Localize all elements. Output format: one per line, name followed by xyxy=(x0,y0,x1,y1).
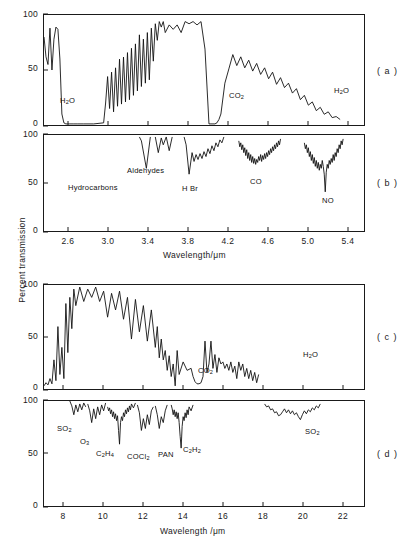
panel-c-annot-h2o: H2O xyxy=(303,350,318,359)
panel-a-ytick-0: 0 xyxy=(12,118,38,128)
xtick-bottom-0: 8 xyxy=(50,511,76,521)
panel-d-annot-o3: O3 xyxy=(80,437,89,446)
panel-b-annot-no: NO xyxy=(322,196,334,205)
panel-letter-b: ( b ) xyxy=(377,178,398,188)
panel-a-plot xyxy=(43,14,365,126)
x-axis-title-top: Wavelength/μm xyxy=(163,250,226,260)
xtick-top-0: 2.6 xyxy=(55,236,81,246)
panel-d-ytick-50: 50 xyxy=(12,448,38,458)
panel-a-annot-h2o-right: H2O xyxy=(334,86,349,95)
x-axis-title-bottom: Wavelength /μm xyxy=(160,526,225,536)
panel-letter-c: ( c ) xyxy=(377,332,398,342)
panel-b-annot-co: CO xyxy=(250,177,262,186)
panel-d-ytick-0: 0 xyxy=(12,500,38,510)
xtick-bottom-6: 20 xyxy=(290,511,316,521)
figure-container: 100 50 0 H2O CO2 H2O ( a ) 100 50 0 Hydr… xyxy=(0,0,413,545)
panel-a-ytick-100: 100 xyxy=(12,9,38,19)
xtick-bottom-5: 18 xyxy=(250,511,276,521)
panel-b-annot-hydrocarbons: Hydrocarbons xyxy=(68,183,118,192)
xtick-top-5: 4.6 xyxy=(255,236,281,246)
xtick-top-6: 5.0 xyxy=(295,236,321,246)
panel-d-annot-so2-right: SO2 xyxy=(305,427,320,436)
panel-d-annot-c2h4: C2H4 xyxy=(96,449,114,458)
panel-d-annot-cocl2: COCl2 xyxy=(127,452,150,461)
panel-c-annot-co2: CO2 xyxy=(198,366,213,375)
panel-d-annot-c2h2: C2H2 xyxy=(183,445,201,454)
xtick-bottom-1: 10 xyxy=(90,511,116,521)
xtick-bottom-3: 14 xyxy=(170,511,196,521)
panel-b-ytick-100: 100 xyxy=(12,129,38,139)
xtick-top-1: 3.0 xyxy=(95,236,121,246)
panel-a-curve xyxy=(44,15,364,125)
xtick-top-3: 3.8 xyxy=(175,236,201,246)
panel-b-annot-hbr: H Br xyxy=(182,184,198,193)
xtick-bottom-2: 12 xyxy=(130,511,156,521)
panel-c-ytick-50: 50 xyxy=(12,331,38,341)
panel-d-plot xyxy=(43,400,365,507)
panel-d-annot-so2-left: SO2 xyxy=(57,424,72,433)
panel-b-annot-aldehydes: Aldehydes xyxy=(127,166,164,175)
y-axis-title: Percent transmission xyxy=(17,200,27,320)
panel-a-annot-h2o-left: H2O xyxy=(60,96,75,105)
xtick-top-4: 4.2 xyxy=(215,236,241,246)
panel-letter-d: ( d ) xyxy=(377,449,398,459)
xtick-top-7: 5.4 xyxy=(335,236,361,246)
panel-letter-a: ( a ) xyxy=(377,66,398,76)
xtick-top-2: 3.4 xyxy=(135,236,161,246)
xtick-bottom-7: 22 xyxy=(330,511,356,521)
panel-b-ytick-50: 50 xyxy=(12,177,38,187)
panel-d-annot-pan: PAN xyxy=(158,450,174,459)
panel-d-ytick-100: 100 xyxy=(12,395,38,405)
panel-c-ytick-0: 0 xyxy=(12,382,38,392)
xtick-bottom-4: 16 xyxy=(210,511,236,521)
panel-a-ytick-50: 50 xyxy=(12,63,38,73)
panel-a-annot-co2: CO2 xyxy=(229,91,244,100)
panel-d-bands xyxy=(44,401,364,506)
